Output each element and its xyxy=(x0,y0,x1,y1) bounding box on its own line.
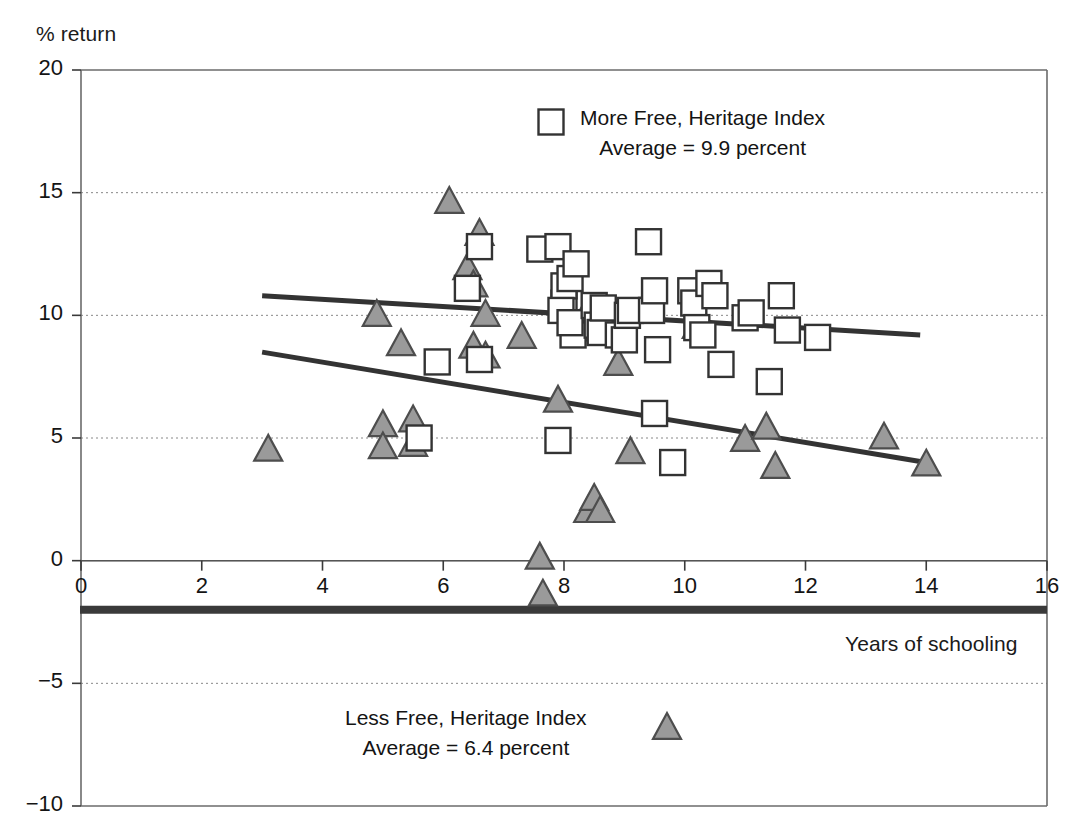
data-point-more-free xyxy=(775,318,800,343)
legend-more-free: More Free, Heritage Index Average = 9.9 … xyxy=(580,103,825,163)
x-axis-title: Years of schooling xyxy=(845,632,1018,656)
legend-more-free-label-line2: Average = 9.9 percent xyxy=(580,133,825,163)
data-point-more-free xyxy=(612,327,637,352)
data-point-more-free xyxy=(407,426,432,451)
data-point-less-free xyxy=(472,300,500,326)
y-tick-label-10: 10 xyxy=(3,300,63,326)
x-tick-label-16: 16 xyxy=(1017,573,1077,599)
y-tick-label-0: 0 xyxy=(3,546,63,572)
y-tick-label-5: 5 xyxy=(3,423,63,449)
x-tick-label-8: 8 xyxy=(534,573,594,599)
data-point-more-free xyxy=(660,450,685,475)
data-point-less-free xyxy=(761,452,789,478)
data-point-more-free xyxy=(545,428,570,453)
x-tick-label-12: 12 xyxy=(776,573,836,599)
legend-marker-more-free xyxy=(539,110,564,135)
data-point-more-free xyxy=(564,251,589,276)
x-tick-label-14: 14 xyxy=(896,573,956,599)
y-tick-label-20: 20 xyxy=(3,55,63,81)
x-tick-label-4: 4 xyxy=(293,573,353,599)
data-point-less-free xyxy=(254,435,282,461)
data-point-more-free xyxy=(455,276,480,301)
legend-less-free: Less Free, Heritage Index Average = 6.4 … xyxy=(345,703,587,763)
data-point-more-free xyxy=(702,283,727,308)
y-axis-title: % return xyxy=(36,22,116,46)
data-point-more-free xyxy=(757,369,782,394)
data-point-less-free xyxy=(435,187,463,213)
data-points-less-free xyxy=(254,187,940,605)
data-point-less-free xyxy=(387,329,415,355)
data-point-more-free xyxy=(591,295,616,320)
y-tick-label--5: −5 xyxy=(3,668,63,694)
data-point-more-free xyxy=(642,401,667,426)
data-point-more-free xyxy=(805,325,830,350)
data-point-more-free xyxy=(708,352,733,377)
chart-figure: % return Years of schooling More Free, H… xyxy=(0,0,1089,838)
legend-less-free-label-line1: Less Free, Heritage Index xyxy=(345,703,587,733)
data-point-more-free xyxy=(739,300,764,325)
data-point-less-free xyxy=(752,413,780,439)
legend-less-free-label-line2: Average = 6.4 percent xyxy=(345,733,587,763)
legend-marker-less-free xyxy=(653,713,681,739)
data-point-more-free xyxy=(645,337,670,362)
x-tick-label-10: 10 xyxy=(655,573,715,599)
legend-more-free-label-line1: More Free, Heritage Index xyxy=(580,103,825,133)
data-point-less-free xyxy=(526,543,554,569)
less-free-trend xyxy=(262,352,926,462)
x-tick-label-0: 0 xyxy=(51,573,111,599)
data-point-more-free xyxy=(425,349,450,374)
data-point-less-free xyxy=(870,423,898,449)
y-tick-label-15: 15 xyxy=(3,178,63,204)
data-point-more-free xyxy=(642,278,667,303)
data-point-more-free xyxy=(636,229,661,254)
data-point-less-free xyxy=(508,322,536,348)
x-tick-label-6: 6 xyxy=(413,573,473,599)
x-tick-label-2: 2 xyxy=(172,573,232,599)
data-point-more-free xyxy=(769,283,794,308)
data-point-more-free xyxy=(467,234,492,259)
data-point-more-free xyxy=(467,347,492,372)
data-point-less-free xyxy=(616,437,644,463)
data-point-more-free xyxy=(558,310,583,335)
y-tick-label--10: −10 xyxy=(3,791,63,817)
data-point-more-free xyxy=(690,322,715,347)
